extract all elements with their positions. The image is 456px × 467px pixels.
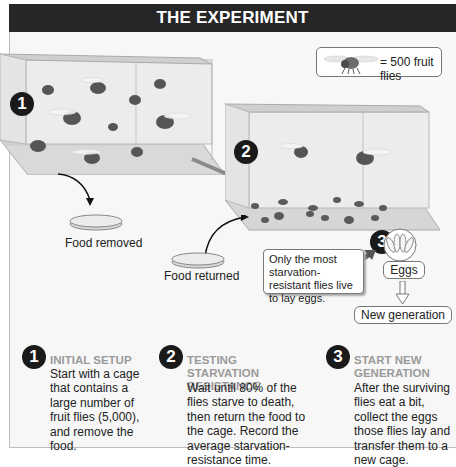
text-line: After the surviving [354, 381, 450, 395]
food-returned-arrow-and-dish [165, 215, 255, 275]
selection-callout: Only the most starvation-resistant flies… [263, 249, 364, 294]
text-line: the cage. Record the [187, 424, 305, 438]
step-3-text: After the surviving flies eat a bit, col… [354, 381, 450, 467]
step-2-badge: 2 [234, 140, 258, 164]
eggs-icon [380, 228, 420, 262]
cage-2 [225, 100, 440, 240]
text-line: collect the eggs [354, 410, 450, 424]
text-line: large number of [50, 396, 139, 410]
step-1-heading: INITIAL SETUP [50, 354, 132, 367]
text-line: that contains a [50, 381, 139, 395]
step-2-number: 2 [159, 345, 183, 369]
text-line: average starvation- [187, 439, 305, 453]
eggs-label: Eggs [383, 261, 425, 279]
step-2-text: Wait until 80% of the flies starve to de… [187, 381, 305, 467]
step-1-badge: 1 [10, 92, 34, 116]
food-removed-arrow-and-dish [50, 170, 130, 240]
text-line: new cage. [354, 453, 450, 467]
text-line: transfer them to a [354, 439, 450, 453]
heading-line: START NEW [354, 354, 430, 367]
step-3-heading: START NEW GENERATION [354, 354, 430, 380]
text-line: Start with a cage [50, 367, 139, 381]
text-line: then return the food to [187, 410, 305, 424]
figure-title: THE EXPERIMENT [9, 4, 456, 32]
text-line: and remove the [50, 425, 139, 439]
text-line: those flies lay and [354, 424, 450, 438]
legend-box: = 500 fruit flies [316, 47, 442, 77]
heading-line: TESTING STARVATION [187, 354, 309, 380]
heading-line: GENERATION [354, 367, 430, 380]
legend-label: = 500 fruit flies [380, 55, 441, 83]
text-line: flies eat a bit, [354, 395, 450, 409]
food-returned-label: Food returned [164, 269, 239, 283]
new-generation-label: New generation [354, 306, 452, 324]
step-1-number: 1 [22, 345, 46, 369]
text-line: fruit flies (5,000), [50, 410, 139, 424]
down-arrow-icon [396, 281, 410, 305]
text-line: resistance time. [187, 453, 305, 467]
text-line: flies starve to death, [187, 395, 305, 409]
text-line: food. [50, 439, 139, 453]
food-removed-label: Food removed [65, 236, 142, 250]
step-1-text: Start with a cage that contains a large … [50, 367, 139, 453]
step-3-number: 3 [326, 345, 350, 369]
fruit-fly-icon [323, 51, 379, 75]
text-line: Wait until 80% of the [187, 381, 305, 395]
